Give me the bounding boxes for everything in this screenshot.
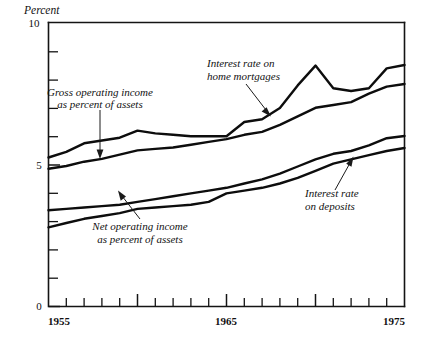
x-tick-label-1975: 1975 <box>383 315 406 327</box>
y-tick-label-0: 0 <box>36 300 42 312</box>
x-tick-label-1955: 1955 <box>48 315 71 327</box>
chart-page: Percent 10 5 0 1955 1965 1975 Gross oper… <box>0 0 422 338</box>
y-tick-label-10: 10 <box>29 17 41 29</box>
annotation-net-operating-income: Net operating income as percent of asset… <box>91 220 187 245</box>
annotation-interest-rate-home-mortgages: Interest rate on home mortgages <box>206 57 280 82</box>
annotation-net-operating-income-line1: Net operating income <box>91 220 187 232</box>
annotation-gross-operating-income: Gross operating income as percent of ass… <box>47 86 153 110</box>
line-chart: Percent 10 5 0 1955 1965 1975 Gross oper… <box>0 0 422 338</box>
x-axis-ticks <box>66 294 386 307</box>
x-tick-label-1965: 1965 <box>215 315 238 327</box>
annotation-arrow-interest-rate-home-mortgages <box>246 84 271 117</box>
annotation-interest-rate-home-mortgages-line2: home mortgages <box>207 70 280 82</box>
y-axis-unit-label: Percent <box>23 4 60 16</box>
annotation-interest-rate-home-mortgages-line1: Interest rate on <box>206 57 275 69</box>
y-tick-label-5: 5 <box>36 159 42 171</box>
annotation-arrow-gross-operating-income <box>97 110 104 159</box>
annotation-gross-operating-income-line1: Gross operating income <box>47 86 153 98</box>
annotation-gross-operating-income-line2: as percent of assets <box>57 98 142 110</box>
annotation-interest-rate-deposits: Interest rate on deposits <box>304 187 359 212</box>
annotation-interest-rate-deposits-line2: on deposits <box>305 200 355 212</box>
annotation-net-operating-income-line2: as percent of assets <box>97 233 182 245</box>
annotation-interest-rate-deposits-line1: Interest rate <box>304 187 359 199</box>
